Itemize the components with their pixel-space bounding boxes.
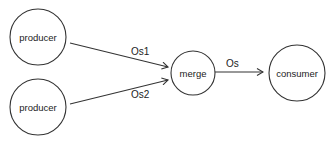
edge-producer1-merge: Os1 [70, 43, 168, 67]
arrow-icon [70, 43, 168, 67]
node-producer-1: producer [10, 9, 66, 65]
node-label: producer [19, 32, 57, 43]
node-consumer: consumer [269, 45, 325, 101]
node-producer-2: producer [10, 79, 66, 135]
edge-label-os2: Os2 [131, 89, 150, 100]
edge-label-os: Os [226, 58, 239, 69]
edge-label-os1: Os1 [131, 46, 150, 57]
node-label: consumer [276, 68, 318, 79]
node-label: merge [180, 68, 207, 79]
edge-producer2-merge: Os2 [70, 80, 168, 104]
arrow-icon [70, 80, 168, 104]
dataflow-diagram: Os1 Os2 Os producer producer merge consu… [0, 0, 331, 144]
node-merge: merge [171, 51, 215, 95]
node-label: producer [19, 102, 57, 113]
